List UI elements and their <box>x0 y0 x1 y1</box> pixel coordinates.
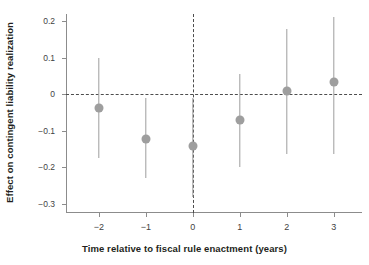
x-axis-tick-label: −2 <box>94 222 104 232</box>
y-axis-title: Effect on contingent liability realizati… <box>0 0 20 225</box>
plot-area: 0.20.10−0.1−0.2−0.3 −2−10123 <box>66 14 362 213</box>
x-axis-tick-label: 3 <box>331 222 336 232</box>
y-axis-tick: −0.2 <box>62 167 66 168</box>
x-axis-tick <box>240 213 241 217</box>
x-axis-tick <box>99 213 100 217</box>
y-axis-tick-label: 0.1 <box>43 53 55 63</box>
x-axis-tick-label: −1 <box>141 222 151 232</box>
x-axis-title: Time relative to fiscal rule enactment (… <box>0 243 369 254</box>
y-axis-tick: 0 <box>62 94 66 95</box>
y-axis-tick-label: −0.3 <box>38 199 55 209</box>
y-axis-tick: 0.1 <box>62 58 66 59</box>
zero-reference-line-horizontal <box>66 94 362 95</box>
x-axis-tick-label: 1 <box>237 222 242 232</box>
x-axis-tick <box>193 213 194 217</box>
x-axis-tick-label: 0 <box>190 222 195 232</box>
y-axis-tick-label: 0 <box>50 89 55 99</box>
y-axis-tick: −0.1 <box>62 131 66 132</box>
y-axis-tick-label: −0.1 <box>38 126 55 136</box>
x-axis-tick <box>334 213 335 217</box>
y-axis-tick: 0.2 <box>62 21 66 22</box>
x-axis-tick <box>146 213 147 217</box>
data-point-marker <box>282 87 291 96</box>
data-point-marker <box>329 77 338 86</box>
data-point-marker <box>141 134 150 143</box>
data-point-marker <box>235 116 244 125</box>
x-axis-tick <box>287 213 288 217</box>
event-study-chart: Effect on contingent liability realizati… <box>0 0 369 265</box>
y-axis-line <box>66 14 67 213</box>
data-point-marker <box>188 142 197 151</box>
y-axis-title-text: Effect on contingent liability realizati… <box>5 22 16 203</box>
y-axis-tick-label: 0.2 <box>43 16 55 26</box>
y-axis-tick: −0.3 <box>62 204 66 205</box>
x-axis-line <box>66 212 362 213</box>
data-point-marker <box>94 103 103 112</box>
x-axis-tick-label: 2 <box>284 222 289 232</box>
y-axis-tick-label: −0.2 <box>38 162 55 172</box>
